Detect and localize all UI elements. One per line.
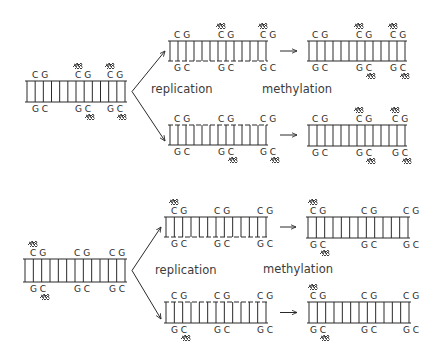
cg-label-top: C G xyxy=(171,291,187,301)
methylation-diagram: C GG CC GG CC GG CC GG CC GG CC GG CC GG… xyxy=(0,0,434,353)
cg-label-top: C G xyxy=(361,291,377,301)
replication-arrow-1-2 xyxy=(132,92,165,142)
methyl-group-icon xyxy=(169,199,179,205)
gc-label-bottom: G C xyxy=(361,240,377,250)
daughter-2-2-methylated: C GG CC GG CC GG C xyxy=(307,284,419,341)
cg-label-top: C G xyxy=(214,291,230,301)
cg-label-top: C G xyxy=(403,206,419,216)
cg-label-top: C G xyxy=(392,114,408,124)
methyl-group-icon xyxy=(402,158,412,164)
gc-label-bottom: G C xyxy=(32,104,48,114)
cg-label-top: C G xyxy=(361,206,377,216)
cg-label-top: C G xyxy=(312,30,328,40)
cg-label-top: C G xyxy=(310,206,326,216)
daughter-2-1-replicated: C GG CC GG CC GG C xyxy=(164,199,273,249)
methyl-group-icon xyxy=(105,63,115,69)
cg-label-top: C G xyxy=(174,30,190,40)
cg-label-top: C G xyxy=(30,248,46,258)
methyl-group-icon xyxy=(216,23,226,29)
methyl-group-icon xyxy=(28,241,38,247)
methyl-group-icon xyxy=(366,158,376,164)
cg-label-top: C G xyxy=(74,248,90,258)
gc-label-bottom: G C xyxy=(312,148,328,158)
gc-label-bottom: G C xyxy=(109,284,125,294)
methyl-group-icon xyxy=(258,23,268,29)
cg-label-top: C G xyxy=(257,291,273,301)
gc-label-bottom: G C xyxy=(392,148,408,158)
gc-label-bottom: G C xyxy=(310,325,326,335)
cg-label-top: C G xyxy=(214,206,230,216)
methyl-group-icon xyxy=(181,335,191,341)
cg-label-top: C G xyxy=(32,70,48,80)
methyl-group-icon xyxy=(308,199,318,205)
daughter-1-1-replicated: C GG CC GG CC GG C xyxy=(168,23,276,73)
methyl-group-icon xyxy=(320,335,330,341)
methyl-group-icon xyxy=(117,114,127,120)
gc-label-bottom: G C xyxy=(174,147,190,157)
gc-label-bottom: G C xyxy=(310,240,326,250)
cg-label-top: C G xyxy=(257,206,273,216)
methyl-group-icon xyxy=(400,73,410,79)
cg-label-top: C G xyxy=(260,114,276,124)
gc-label-bottom: G C xyxy=(260,147,276,157)
gc-label-bottom: G C xyxy=(75,104,91,114)
gc-label-bottom: G C xyxy=(74,284,90,294)
gc-label-bottom: G C xyxy=(218,63,234,73)
gc-label-bottom: G C xyxy=(260,63,276,73)
cg-label-top: C G xyxy=(356,30,372,40)
cg-label-top: C G xyxy=(75,70,91,80)
gc-label-bottom: G C xyxy=(214,325,230,335)
gc-label-bottom: G C xyxy=(361,325,377,335)
cg-label-top: C G xyxy=(171,206,187,216)
cg-label-top: C G xyxy=(218,30,234,40)
cg-label-top: C G xyxy=(174,114,190,124)
daughter-1-2-methylated: C GG CC GG CC GG C xyxy=(307,107,412,164)
methyl-group-icon xyxy=(366,73,376,79)
gc-label-bottom: G C xyxy=(403,325,419,335)
cg-label-top: C G xyxy=(390,30,406,40)
replication-arrow-2-2 xyxy=(132,271,161,320)
dna-molecules: C GG CC GG CC GG CC GG CC GG CC GG CC GG… xyxy=(23,23,419,341)
methyl-group-icon xyxy=(85,114,95,120)
daughter-2-2-replicated: C GG CC GG CC GG C xyxy=(164,291,273,341)
gc-label-bottom: G C xyxy=(174,63,190,73)
methylation-label-top: methylation xyxy=(262,82,332,96)
gc-label-bottom: G C xyxy=(171,325,187,335)
methyl-group-icon xyxy=(270,157,280,163)
gc-label-bottom: G C xyxy=(356,148,372,158)
replication-label-bottom: replication xyxy=(155,263,217,277)
parent-dna-2: C GG CC GG CC GG C xyxy=(23,241,127,300)
gc-label-bottom: G C xyxy=(356,63,372,73)
cg-label-top: C G xyxy=(403,291,419,301)
methyl-group-icon xyxy=(354,23,364,29)
gc-label-bottom: G C xyxy=(30,284,46,294)
cg-label-top: C G xyxy=(260,30,276,40)
cg-label-top: C G xyxy=(218,114,234,124)
daughter-1-1-methylated: C GG CC GG CC GG C xyxy=(307,23,410,79)
daughter-2-1-methylated: C GG CC GG CC GG C xyxy=(306,199,419,256)
methyl-group-icon xyxy=(40,294,50,300)
gc-label-bottom: G C xyxy=(257,239,273,249)
methyl-group-icon xyxy=(228,157,238,163)
gc-label-bottom: G C xyxy=(107,104,123,114)
methyl-group-icon xyxy=(320,250,330,256)
gc-label-bottom: G C xyxy=(403,240,419,250)
gc-label-bottom: G C xyxy=(390,63,406,73)
cg-label-top: C G xyxy=(312,114,328,124)
gc-label-bottom: G C xyxy=(171,239,187,249)
methyl-group-icon xyxy=(308,284,318,290)
methyl-group-icon xyxy=(73,63,83,69)
methyl-group-icon xyxy=(388,23,398,29)
cg-label-top: C G xyxy=(356,114,372,124)
gc-label-bottom: G C xyxy=(312,63,328,73)
parent-dna-1: C GG CC GG CC GG C xyxy=(25,63,127,120)
cg-label-top: C G xyxy=(310,291,326,301)
gc-label-bottom: G C xyxy=(218,147,234,157)
cg-label-top: C G xyxy=(107,70,123,80)
methyl-group-icon xyxy=(390,107,400,113)
daughter-1-2-replicated: C GG CC GG CC GG C xyxy=(168,114,280,163)
replication-label-top: replication xyxy=(151,82,213,96)
methyl-group-icon xyxy=(354,107,364,113)
gc-label-bottom: G C xyxy=(257,325,273,335)
dna-diagram-canvas: C GG CC GG CC GG CC GG CC GG CC GG CC GG… xyxy=(0,0,434,353)
